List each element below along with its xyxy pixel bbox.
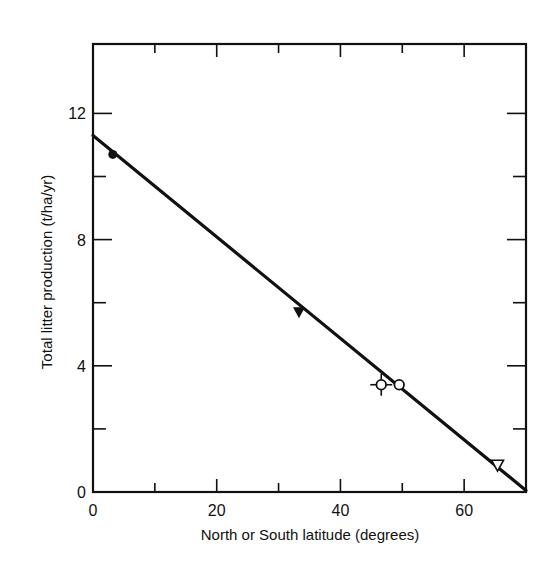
fit-line <box>93 135 526 490</box>
x-tick-label: 0 <box>89 502 98 519</box>
axis-ticks <box>93 44 526 492</box>
x-tick-label: 20 <box>208 502 226 519</box>
y-tick-label: 8 <box>77 232 86 249</box>
open-circle-marker <box>394 380 404 390</box>
x-axis-title: North or South latitude (degrees) <box>201 526 419 543</box>
y-tick-label: 4 <box>77 358 86 375</box>
regression-line <box>93 135 526 490</box>
filled-triangle-marker <box>293 307 305 318</box>
y-axis-title: Total litter production (t/ha/yr) <box>38 175 55 369</box>
litter-latitude-chart: 020406004812 North or South latitude (de… <box>0 0 557 574</box>
axis-tick-labels: 020406004812 <box>68 105 473 519</box>
plot-frame <box>93 44 526 492</box>
filled-circle-marker <box>108 150 117 159</box>
plot-border <box>93 44 526 492</box>
open-circle-crosshair-marker <box>376 380 386 390</box>
y-tick-label: 12 <box>68 105 86 122</box>
x-tick-label: 40 <box>332 502 350 519</box>
y-tick-label: 0 <box>77 484 86 501</box>
x-tick-label: 60 <box>455 502 473 519</box>
